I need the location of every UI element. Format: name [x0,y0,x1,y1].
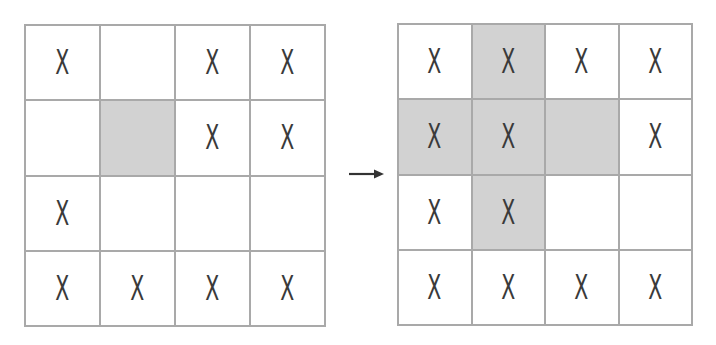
cell-mark: X [55,197,69,230]
grid-after: XXXXXXXXXXXXX [397,23,693,326]
before-cell-r1-c4: X [250,25,325,100]
cell-mark: X [501,45,515,78]
after-cell-r3-c4 [619,175,693,250]
grid-before: XXXXXXXXXX [24,24,326,327]
after-cell-r4-c2: X [472,250,546,325]
right-arrow-icon [349,169,385,179]
cell-mark: X [55,46,69,79]
after-cell-r2-c3 [545,99,619,174]
before-cell-r4-c1: X [25,251,100,326]
before-cell-r2-c4: X [250,100,325,175]
after-cell-r3-c3 [545,175,619,250]
cell-mark: X [428,271,442,304]
cell-mark: X [501,271,515,304]
after-cell-r3-c1: X [398,175,472,250]
after-cell-r1-c1: X [398,24,472,99]
before-cell-r1-c3: X [175,25,250,100]
cell-mark: X [648,271,662,304]
after-cell-r2-c2: X [472,99,546,174]
cell-mark: X [428,120,442,153]
after-cell-r2-c1: X [398,99,472,174]
cell-mark: X [648,45,662,78]
cell-mark: X [205,46,219,79]
before-cell-r4-c2: X [100,251,175,326]
cell-mark: X [130,272,144,305]
before-cell-r1-c1: X [25,25,100,100]
cell-mark: X [575,45,589,78]
cell-mark: X [280,272,294,305]
cell-mark: X [428,196,442,229]
before-cell-r4-c4: X [250,251,325,326]
after-cell-r3-c2: X [472,175,546,250]
cell-mark: X [428,45,442,78]
cell-mark: X [501,196,515,229]
after-cell-r2-c4: X [619,99,693,174]
after-cell-r1-c3: X [545,24,619,99]
before-cell-r2-c2 [100,100,175,175]
before-cell-r3-c3 [175,176,250,251]
before-cell-r2-c1 [25,100,100,175]
after-cell-r4-c1: X [398,250,472,325]
after-cell-r1-c2: X [472,24,546,99]
before-cell-r2-c3: X [175,100,250,175]
after-cell-r4-c4: X [619,250,693,325]
cell-mark: X [280,46,294,79]
cell-mark: X [205,272,219,305]
cell-mark: X [575,271,589,304]
after-cell-r1-c4: X [619,24,693,99]
before-cell-r3-c4 [250,176,325,251]
cell-mark: X [205,121,219,154]
cell-mark: X [55,272,69,305]
cell-mark: X [501,120,515,153]
cell-mark: X [280,121,294,154]
before-cell-r1-c2 [100,25,175,100]
before-cell-r3-c2 [100,176,175,251]
before-cell-r3-c1: X [25,176,100,251]
after-cell-r4-c3: X [545,250,619,325]
cell-mark: X [648,120,662,153]
before-cell-r4-c3: X [175,251,250,326]
